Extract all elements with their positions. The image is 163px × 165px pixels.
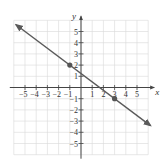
x-tick-label: −2 bbox=[53, 90, 62, 99]
x-axis-label: x bbox=[154, 87, 159, 97]
y-tick-label: −3 bbox=[69, 117, 78, 126]
y-tick-label: −2 bbox=[69, 106, 78, 115]
data-point bbox=[112, 96, 117, 101]
x-tick-label: −4 bbox=[30, 90, 39, 99]
y-tick-label: 1 bbox=[74, 72, 78, 81]
y-tick-label: 5 bbox=[74, 28, 78, 37]
x-tick-label: 1 bbox=[90, 90, 94, 99]
y-axis-label: y bbox=[71, 11, 76, 21]
x-tick-label: −3 bbox=[41, 90, 50, 99]
y-tick-label: −4 bbox=[69, 128, 78, 137]
y-tick-label: −1 bbox=[69, 95, 78, 104]
y-tick-label: −5 bbox=[69, 140, 78, 149]
data-point bbox=[67, 63, 72, 68]
x-tick-label: 5 bbox=[135, 90, 139, 99]
x-tick-label: 4 bbox=[124, 90, 128, 99]
coordinate-plane: xy−5−4−3−2−112345−5−4−3−2−112345 bbox=[0, 0, 163, 165]
y-tick-label: 4 bbox=[74, 39, 78, 48]
y-tick-label: 3 bbox=[74, 50, 78, 59]
x-tick-label: −5 bbox=[19, 90, 28, 99]
